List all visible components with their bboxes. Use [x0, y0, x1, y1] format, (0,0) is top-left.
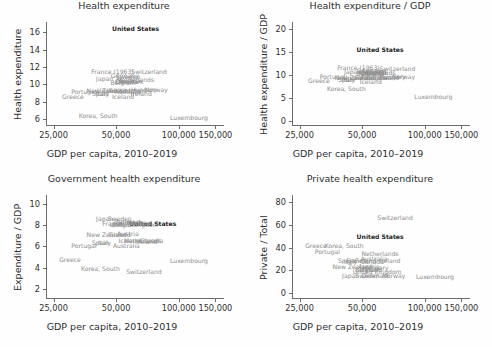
y-axis-label: Health expenditure / GDP: [258, 13, 269, 134]
data-point-label: United States: [112, 26, 159, 32]
y-tick: [43, 204, 46, 205]
data-point-label: Greece: [59, 257, 81, 263]
y-tick-label: 10: [30, 79, 40, 89]
y-tick-label: 5: [281, 93, 286, 103]
x-tick-label: 150,000: [444, 130, 478, 140]
y-tick: [43, 289, 46, 290]
x-tick: [116, 126, 117, 129]
x-tick-label: 150,000: [444, 303, 478, 313]
x-tick: [179, 299, 180, 302]
y-tick-label: 20: [276, 265, 286, 275]
y-tick: [289, 202, 292, 203]
panel-4: Private health expenditure25,00050,00010…: [246, 173, 492, 347]
panel-title: Health expenditure / GDP: [246, 0, 492, 11]
data-point-label: United Kingdom: [110, 222, 159, 228]
y-tick: [43, 268, 46, 269]
data-point-label: Switzerland: [126, 269, 162, 275]
x-tick: [461, 299, 462, 302]
y-tick: [289, 98, 292, 99]
panel-title: Health expenditure: [0, 0, 248, 11]
y-tick: [43, 225, 46, 226]
x-tick: [425, 126, 426, 129]
y-tick-label: 0: [281, 116, 286, 126]
y-tick: [289, 293, 292, 294]
plot-area: 25,00050,000100,000150,000020406080Switz…: [292, 195, 470, 299]
x-tick: [179, 126, 180, 129]
panel-1: Health expenditure25,00050,000100,000150…: [0, 0, 248, 174]
x-tick: [54, 126, 55, 129]
y-tick-label: 0: [281, 288, 286, 298]
x-axis-line: [46, 125, 224, 126]
panel-3: Government health expenditure25,00050,00…: [0, 173, 248, 347]
data-point-label: Luxembourg: [414, 94, 452, 100]
y-axis-label: Expenditure / GDP: [12, 203, 23, 290]
y-tick-label: 8: [35, 97, 40, 107]
y-tick: [289, 75, 292, 76]
x-tick: [362, 126, 363, 129]
y-tick: [289, 225, 292, 226]
data-point-label: Portugal: [71, 243, 96, 249]
y-axis-line: [292, 195, 293, 299]
y-tick-label: 2: [35, 284, 40, 294]
y-tick: [43, 32, 46, 33]
y-tick: [289, 248, 292, 249]
data-point-label: Switzerland: [377, 215, 413, 221]
y-tick: [43, 67, 46, 68]
plot-area: 25,00050,000100,000150,0006810121416Unit…: [46, 22, 224, 126]
x-tick-label: 25,000: [39, 303, 68, 313]
x-tick: [116, 299, 117, 302]
x-axis-line: [292, 298, 470, 299]
x-tick-label: 100,000: [162, 303, 196, 313]
y-tick-label: 10: [276, 70, 286, 80]
y-tick-label: 12: [30, 62, 40, 72]
x-tick-label: 100,000: [162, 130, 196, 140]
y-axis-line: [292, 22, 293, 126]
data-point-label: United States: [357, 47, 404, 53]
y-tick-label: 16: [30, 27, 40, 37]
data-point-label: Korea, South: [81, 266, 120, 272]
y-axis-line: [46, 195, 47, 299]
x-axis-line: [292, 125, 470, 126]
data-point-label: Hungary: [131, 87, 157, 93]
x-axis-line: [46, 298, 224, 299]
y-tick: [289, 121, 292, 122]
x-tick: [54, 299, 55, 302]
plot-area: 25,00050,000100,000150,00005101520United…: [292, 22, 470, 126]
y-tick: [289, 29, 292, 30]
data-point-label: Hungary: [380, 74, 406, 80]
y-tick-label: 10: [30, 199, 40, 209]
x-axis-label: GDP per capita, 2010–2019: [0, 321, 224, 332]
x-tick-label: 25,000: [285, 303, 314, 313]
y-tick: [43, 50, 46, 51]
x-tick: [425, 299, 426, 302]
y-tick-label: 20: [276, 24, 286, 34]
y-axis-label: Private / Total: [258, 215, 269, 280]
data-point-label: Luxembourg: [170, 258, 208, 264]
x-tick-label: 100,000: [408, 303, 442, 313]
data-point-label: Portugal: [315, 249, 340, 255]
y-tick: [43, 102, 46, 103]
y-axis-label: Health expenditure: [12, 28, 23, 119]
y-axis-line: [46, 22, 47, 126]
data-point-label: United States: [357, 234, 404, 240]
x-tick: [461, 126, 462, 129]
x-tick-label: 25,000: [285, 130, 314, 140]
x-tick-label: 25,000: [39, 130, 68, 140]
y-tick-label: 6: [35, 114, 40, 124]
figure-canvas: Health expenditure25,00050,000100,000150…: [0, 0, 492, 347]
x-tick-label: 150,000: [198, 130, 232, 140]
y-tick: [43, 84, 46, 85]
x-tick-label: 100,000: [408, 130, 442, 140]
y-tick: [43, 246, 46, 247]
x-tick-label: 50,000: [102, 130, 131, 140]
data-point-label: Luxembourg: [170, 115, 208, 121]
data-point-label: Korea, South: [79, 113, 118, 119]
panel-title: Government health expenditure: [0, 173, 248, 184]
data-point-label: Greece: [62, 93, 84, 99]
x-tick: [300, 126, 301, 129]
panel-title: Private health expenditure: [246, 173, 492, 184]
y-tick: [43, 119, 46, 120]
data-point-label: Norway: [382, 273, 405, 279]
x-tick-label: 50,000: [102, 303, 131, 313]
plot-area: 25,00050,000100,000150,000246810United S…: [46, 195, 224, 299]
